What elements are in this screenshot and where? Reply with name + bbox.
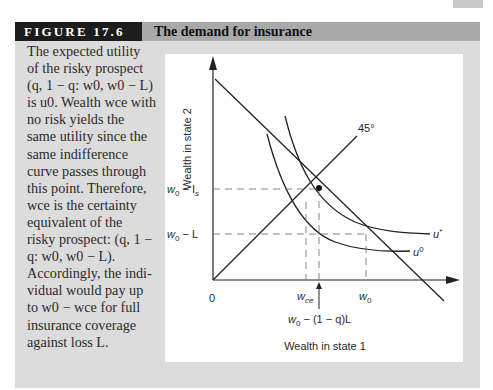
y-tick-w0-minus-Is: w0 − Is bbox=[167, 183, 199, 198]
budget-line bbox=[215, 79, 444, 301]
caption-line: Accordingly, the indi- bbox=[27, 265, 167, 282]
x-tick-expected-wealth: w0 − (1 − q)L bbox=[288, 313, 351, 328]
figure-caption: The expected utility of the risky prospe… bbox=[27, 43, 167, 351]
caption-line: this point. Therefore, bbox=[27, 180, 167, 197]
u0-label: u0 bbox=[413, 245, 424, 258]
y-axis-label: Wealth in state 2 bbox=[181, 108, 193, 190]
certainty-point bbox=[316, 185, 322, 191]
certainty-line-45 bbox=[213, 136, 357, 280]
origin-label: 0 bbox=[209, 292, 215, 304]
caption-line: same utility since the bbox=[27, 128, 167, 145]
page-tab-corner bbox=[453, 0, 483, 8]
figure-label: FIGURE 17.6 bbox=[15, 22, 142, 41]
y-tick-w0-minus-L: w0 − L bbox=[167, 228, 198, 243]
u-star-label: u* bbox=[433, 227, 442, 240]
x-axis-arrow-icon bbox=[446, 276, 460, 284]
caption-line: wce is the certainty bbox=[27, 197, 167, 214]
y-axis-arrow-icon bbox=[209, 56, 217, 70]
caption-line: q: w0, w0 − L). bbox=[27, 248, 167, 265]
caption-line: curve passes through bbox=[27, 163, 167, 180]
caption-line: to w0 − wce for full bbox=[27, 299, 167, 316]
caption-line: against loss L. bbox=[27, 334, 167, 351]
caption-line: risky prospect: (q, 1 − bbox=[27, 231, 167, 248]
caption-line: is u0. Wealth wce with bbox=[27, 94, 167, 111]
caption-line: vidual would pay up bbox=[27, 282, 167, 299]
caption-line: insurance coverage bbox=[27, 317, 167, 334]
caption-line: The expected utility bbox=[27, 43, 167, 60]
angle-label-45: 45° bbox=[358, 122, 375, 134]
tick-pointer-arrow-icon bbox=[316, 282, 322, 289]
caption-line: same indifference bbox=[27, 146, 167, 163]
chart-area: Wealth in state 2 w0 − Is w0 − L 0 wce w… bbox=[165, 54, 463, 362]
caption-line: equivalent of the bbox=[27, 214, 167, 231]
caption-line: of the risky prospect bbox=[27, 60, 167, 77]
x-tick-wce: wce bbox=[297, 290, 314, 305]
x-tick-w0: w0 bbox=[359, 290, 372, 305]
insurance-diagram: Wealth in state 2 w0 − Is w0 − L 0 wce w… bbox=[165, 54, 463, 362]
caption-line: (q, 1 − q: w0, w0 − L) bbox=[27, 77, 167, 94]
caption-line: no risk yields the bbox=[27, 111, 167, 128]
x-axis-label: Wealth in state 1 bbox=[284, 340, 366, 352]
figure-title: The demand for insurance bbox=[142, 22, 480, 41]
